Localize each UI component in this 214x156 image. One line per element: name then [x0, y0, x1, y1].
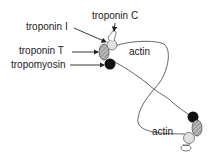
troponin-complex-top [99, 31, 117, 70]
troponin-t-shape-bottom [192, 120, 202, 136]
label-tropomyosin: tropomyosin [11, 59, 65, 71]
troponin-i-shape-bottom [184, 133, 195, 144]
tropomyosin-shape [105, 59, 116, 70]
label-actin-top: actin [129, 46, 150, 58]
label-troponin-i: troponin I [26, 21, 68, 33]
arrow-troponin-i [74, 28, 106, 42]
troponin-actin-diagram: troponin C troponin I troponin T tropomy… [0, 0, 214, 156]
troponin-i-shape [107, 40, 117, 50]
label-troponin-c: troponin C [92, 10, 138, 22]
troponin-complex-bottom [181, 112, 202, 152]
arrow-troponin-c [114, 23, 115, 31]
troponin-c-shape-bottom [181, 145, 191, 151]
troponin-c-shape [108, 31, 116, 41]
label-actin-bottom: actin [152, 126, 173, 138]
label-troponin-t: troponin T [19, 45, 64, 57]
